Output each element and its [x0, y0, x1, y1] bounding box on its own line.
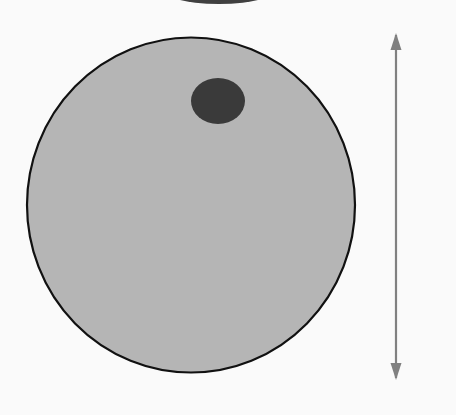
- beach-ball: [27, 38, 355, 373]
- figure-root: [0, 0, 456, 415]
- center-hub: [191, 78, 245, 124]
- dimension-arrow: [391, 33, 402, 380]
- cropped-arc-above: [157, 0, 281, 4]
- dimension-arrowhead-top: [391, 33, 402, 50]
- beach-ball-diagram: [0, 0, 456, 415]
- ball-base-fill: [27, 38, 355, 373]
- dimension-arrowhead-bottom: [391, 363, 402, 380]
